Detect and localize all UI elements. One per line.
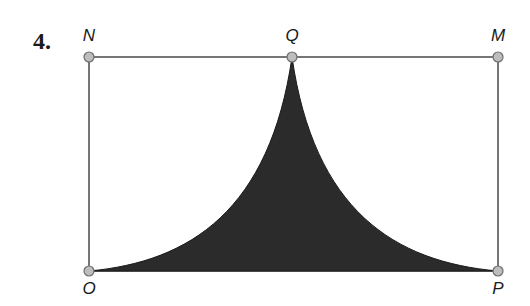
point-n <box>84 52 94 62</box>
label-n: N <box>83 26 95 46</box>
label-o: O <box>82 279 95 299</box>
point-m <box>493 52 503 62</box>
geometry-figure <box>0 0 530 306</box>
point-o <box>84 266 94 276</box>
shaded-region <box>89 57 498 271</box>
label-m: M <box>491 26 505 46</box>
point-p <box>493 266 503 276</box>
label-p: P <box>492 279 503 299</box>
point-q <box>287 52 297 62</box>
label-q: Q <box>285 26 298 46</box>
